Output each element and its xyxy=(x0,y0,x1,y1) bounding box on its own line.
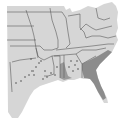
map-svg xyxy=(0,0,129,125)
range-map: Range map xyxy=(0,0,129,125)
